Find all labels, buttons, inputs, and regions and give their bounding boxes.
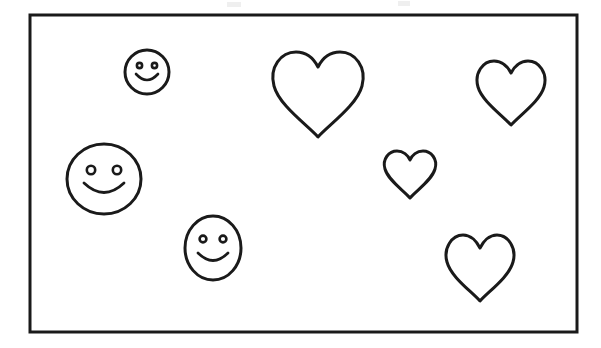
- smiley-eye-left-icon: [200, 236, 207, 243]
- smiley-face-circle: [67, 144, 141, 214]
- smiley-large-left: [67, 144, 141, 214]
- smiley-eye-left-icon: [87, 166, 95, 174]
- drawing-canvas: [0, 0, 601, 348]
- smiley-face-circle: [185, 216, 241, 280]
- smiley-eye-right-icon: [152, 63, 157, 68]
- scan-speck-left-icon: [227, 2, 241, 7]
- smiley-eye-left-icon: [137, 63, 142, 68]
- smiley-small-top-left: [125, 50, 169, 94]
- smiley-eye-right-icon: [220, 236, 227, 243]
- smiley-face-circle: [125, 50, 169, 94]
- smiley-medium-bottom-center: [185, 216, 241, 280]
- shapes-canvas: [0, 0, 601, 348]
- scan-speck-right-icon: [398, 1, 410, 6]
- smiley-eye-right-icon: [113, 166, 121, 174]
